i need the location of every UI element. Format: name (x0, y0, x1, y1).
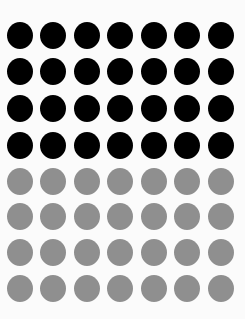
gray-dot (208, 203, 234, 230)
black-dot (208, 95, 234, 122)
gray-dot (141, 203, 167, 230)
black-dot (74, 95, 100, 122)
gray-dot (40, 203, 66, 230)
black-dot (107, 58, 133, 85)
gray-dot (141, 168, 167, 195)
black-dot (141, 58, 167, 85)
black-dot (208, 22, 234, 49)
gray-dot (40, 239, 66, 266)
gray-dot (7, 168, 33, 195)
black-dot (40, 58, 66, 85)
gray-dot (107, 275, 133, 302)
black-dot (141, 132, 167, 159)
gray-dot (7, 275, 33, 302)
gray-dot (107, 168, 133, 195)
gray-dot (74, 203, 100, 230)
black-dot (7, 58, 33, 85)
gray-dot (141, 239, 167, 266)
black-dot (174, 22, 200, 49)
gray-dot (107, 203, 133, 230)
gray-dot (174, 239, 200, 266)
black-dot (40, 22, 66, 49)
gray-dot (74, 239, 100, 266)
black-dot (174, 95, 200, 122)
gray-dot (208, 168, 234, 195)
black-dot (141, 22, 167, 49)
gray-dot (74, 275, 100, 302)
black-dot (174, 132, 200, 159)
gray-dot (208, 239, 234, 266)
black-dot (208, 58, 234, 85)
black-dot (107, 132, 133, 159)
black-dot (74, 132, 100, 159)
dot-grid (0, 0, 245, 319)
gray-dot (141, 275, 167, 302)
black-dot (74, 58, 100, 85)
black-dot (107, 22, 133, 49)
black-dot (7, 95, 33, 122)
black-dot (74, 22, 100, 49)
gray-dot (107, 239, 133, 266)
black-dot (40, 95, 66, 122)
black-dot (107, 95, 133, 122)
gray-dot (174, 168, 200, 195)
gray-dot (174, 203, 200, 230)
gray-dot (7, 239, 33, 266)
black-dot (40, 132, 66, 159)
gray-dot (40, 168, 66, 195)
gray-dot (74, 168, 100, 195)
gray-dot (7, 203, 33, 230)
black-dot (174, 58, 200, 85)
black-dot (7, 132, 33, 159)
gray-dot (174, 275, 200, 302)
gray-dot (208, 275, 234, 302)
black-dot (208, 132, 234, 159)
black-dot (141, 95, 167, 122)
gray-dot (40, 275, 66, 302)
black-dot (7, 22, 33, 49)
